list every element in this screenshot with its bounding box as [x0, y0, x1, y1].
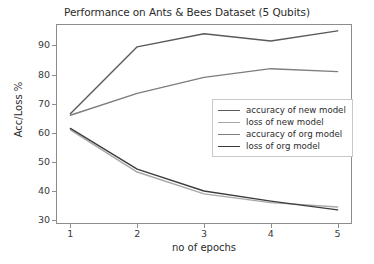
- legend-item-label: loss of new model: [246, 116, 324, 128]
- x-tick-mark: [204, 224, 205, 228]
- chart-legend: accuracy of new modelloss of new modelac…: [212, 99, 353, 157]
- legend-item[interactable]: loss of new model: [218, 116, 346, 128]
- chart-figure: Performance on Ants & Bees Dataset (5 Qu…: [0, 0, 374, 264]
- y-tick-label: 90: [14, 39, 50, 50]
- legend-item-label: loss of org model: [246, 140, 320, 152]
- chart-title: Performance on Ants & Bees Dataset (5 Qu…: [0, 6, 374, 18]
- legend-item-label: accuracy of org model: [246, 128, 342, 140]
- legend-color-swatch: [218, 122, 240, 123]
- y-tick-label: 40: [14, 185, 50, 196]
- x-tick-label: 3: [192, 228, 216, 239]
- legend-color-swatch: [218, 110, 240, 111]
- x-tick-mark: [271, 224, 272, 228]
- y-tick-label: 60: [14, 127, 50, 138]
- legend-color-swatch: [218, 146, 240, 147]
- x-tick-mark: [137, 224, 138, 228]
- y-tick-label: 70: [14, 98, 50, 109]
- y-tick-label: 80: [14, 69, 50, 80]
- x-tick-mark: [338, 224, 339, 228]
- x-tick-mark: [70, 224, 71, 228]
- y-tick-label: 30: [14, 214, 50, 225]
- legend-color-swatch: [218, 134, 240, 135]
- x-tick-label: 2: [125, 228, 149, 239]
- legend-item[interactable]: loss of org model: [218, 140, 346, 152]
- legend-item[interactable]: accuracy of new model: [218, 104, 346, 116]
- x-tick-label: 4: [259, 228, 283, 239]
- x-axis-label: no of epochs: [56, 242, 352, 253]
- legend-item[interactable]: accuracy of org model: [218, 128, 346, 140]
- y-tick-label: 50: [14, 156, 50, 167]
- legend-item-label: accuracy of new model: [246, 104, 346, 116]
- x-tick-label: 1: [58, 228, 82, 239]
- x-tick-label: 5: [326, 228, 350, 239]
